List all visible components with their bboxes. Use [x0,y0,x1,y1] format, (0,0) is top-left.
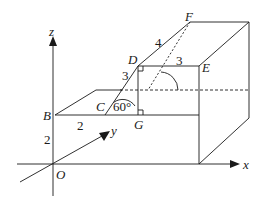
z-axis-label: z [49,25,54,38]
origin-label: O [56,168,65,181]
x-axis-label: x [243,158,249,171]
geometry-figure [0,0,263,205]
length-OB: 2 [44,133,51,146]
y-arrow-icon [99,131,110,141]
point-E-label: E [202,61,210,74]
edge-bottom-right [199,118,249,164]
dashed-F-line [148,22,190,90]
edge-B-back [55,90,96,115]
point-B-label: B [43,109,51,122]
angle-60-label: 60° [113,100,131,113]
right-angle-G [138,110,143,115]
length-DE: 3 [176,54,183,67]
length-CD: 3 [122,69,129,82]
length-BC: 2 [77,119,84,132]
point-F-label: F [185,10,193,23]
x-arrow-icon [230,160,240,168]
length-DF: 4 [155,36,162,49]
y-axis-label: y [111,124,117,137]
diagram-canvas: z x y O B C D E F G 2 2 3 4 3 60° [0,0,263,205]
point-D-label: D [128,53,137,66]
point-C-label: C [96,100,105,113]
angle-arc-dihedral [161,72,178,90]
point-G-label: G [134,118,143,131]
right-angle-D [138,66,143,71]
